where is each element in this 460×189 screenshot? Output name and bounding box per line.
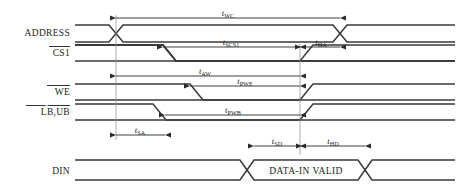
timing-label-twc: tWC — [222, 8, 234, 19]
timing-label-taw: tAW — [199, 66, 211, 77]
data-in-valid-label: DATA-IN VALID — [269, 166, 343, 176]
signal-label-din: DIN — [52, 166, 70, 176]
waveform-lbub — [75, 104, 455, 120]
timing-label-tha: tHA — [315, 37, 327, 48]
timing-label-tpwb: tPWB — [225, 105, 241, 116]
signal-label-lbub: LB,UB — [41, 107, 70, 117]
signal-label-we: WE — [55, 87, 70, 97]
timing-diagram-figure: ADDRESS CS1 WE LB,UB DIN tWC tSCS1 tHA t… — [0, 0, 460, 189]
lbub-waveform-upper — [75, 104, 455, 120]
signal-labels: ADDRESS CS1 WE LB,UB DIN — [25, 28, 70, 176]
timing-label-thd: tHD — [327, 136, 339, 147]
signal-label-address: ADDRESS — [25, 28, 70, 38]
timing-label-tpwe: tPWE — [237, 76, 253, 87]
waveform-din — [75, 160, 455, 180]
waveform-address — [75, 25, 455, 42]
timing-label-tscs1: tSCS1 — [223, 37, 239, 48]
timing-label-tsa: tSA — [135, 125, 146, 136]
timing-waveform-canvas: ADDRESS CS1 WE LB,UB DIN tWC tSCS1 tHA t… — [0, 0, 460, 189]
timing-labels: tWC tSCS1 tHA tAW tPWE tPWB tSA tSD — [135, 8, 339, 147]
waveform-cs1 — [75, 45, 455, 62]
timing-label-tsd: tSD — [272, 136, 283, 147]
signal-label-cs1: CS1 — [53, 48, 70, 58]
